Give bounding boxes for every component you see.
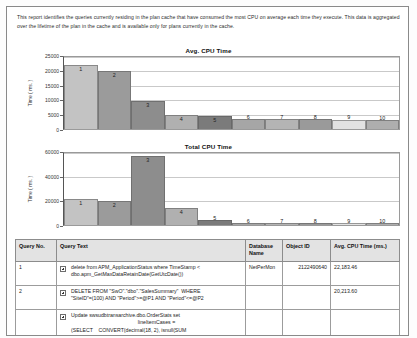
- chart-bar-label: 9: [332, 218, 366, 224]
- chart-bar[interactable]: [299, 119, 333, 129]
- query-text-line: delete from APM_ApplicationStatus where …: [71, 264, 242, 272]
- chart-bar-group[interactable]: 10: [366, 153, 400, 225]
- chart-title: Avg. CPU Time: [15, 47, 402, 54]
- chart-bar-label: 2: [98, 202, 132, 208]
- chart-bar[interactable]: [232, 119, 266, 129]
- chart-bar-group[interactable]: 4: [165, 153, 199, 225]
- cell-database-name: [246, 309, 283, 335]
- chart-bar-group[interactable]: 1: [64, 57, 98, 129]
- chart-total-cpu-time: Total CPU Time Time ( ms. ) 020000400006…: [15, 143, 402, 226]
- y-axis-tick-label: 60000: [45, 149, 59, 155]
- chart-bar-group[interactable]: 6: [232, 57, 266, 129]
- query-text-line: "SiteID"=(100) AND "Period">=@P1 AND "Pe…: [71, 295, 242, 303]
- table-body: 1delete from APM_ApplicationStatus where…: [16, 261, 400, 335]
- chart-bar-label: 4: [165, 209, 199, 215]
- chart-bar-label: 3: [131, 102, 165, 108]
- cell-query-no: 1: [16, 261, 57, 285]
- chart-bar[interactable]: [332, 120, 366, 130]
- cell-object-id: 2122490640: [283, 261, 331, 285]
- cell-avg-cpu-time: [331, 309, 400, 335]
- table-row[interactable]: 1delete from APM_ApplicationStatus where…: [16, 261, 400, 285]
- y-axis-tick-label: 20000: [45, 68, 59, 74]
- chart-bar-group[interactable]: 3: [131, 57, 165, 129]
- cell-query-text[interactable]: DELETE FROM "SwO"."dbo"."SalesSummary" W…: [57, 285, 246, 309]
- query-table-container[interactable]: Query No. Query Text Database Name Objec…: [15, 239, 400, 335]
- chart-bar-label: 10: [366, 218, 400, 224]
- chart-title: Total CPU Time: [15, 143, 402, 150]
- column-header-query-text[interactable]: Query Text: [57, 240, 246, 262]
- chart-bar-group[interactable]: 7: [265, 153, 299, 225]
- cell-query-text[interactable]: Update swsudbtransarchive.dbo.OrderStats…: [57, 309, 246, 335]
- report-page: This report identifies the queries curre…: [0, 0, 417, 338]
- chart-y-axis: 0200004000060000: [29, 152, 63, 226]
- chart-bar-label: 8: [299, 114, 333, 120]
- chart-bars: 12345678910: [64, 153, 399, 225]
- cell-database-name: NetPerMon: [246, 261, 283, 285]
- chart-bar-label: 3: [131, 157, 165, 163]
- chart-bar-group[interactable]: 2: [98, 153, 132, 225]
- query-text-line: Update swsudbtransarchive.dbo.OrderStats…: [71, 312, 242, 320]
- column-header-avg-cpu-time[interactable]: Avg. CPU Time (ms.): [331, 240, 400, 262]
- table-row[interactable]: Update swsudbtransarchive.dbo.OrderStats…: [16, 309, 400, 335]
- y-axis-tick-label: 0: [56, 127, 59, 133]
- chart-bar-label: 5: [198, 215, 232, 221]
- report-intro-text: This report identifies the queries curre…: [17, 13, 400, 32]
- cell-query-no: [16, 309, 57, 335]
- y-axis-tick-label: 5000: [48, 112, 59, 118]
- chart-bar-label: 9: [332, 114, 366, 120]
- expand-plus-icon[interactable]: [60, 266, 66, 272]
- expand-plus-icon[interactable]: [60, 314, 66, 320]
- y-axis-tick-label: 10000: [45, 97, 59, 103]
- chart-bar-label: 10: [366, 115, 400, 121]
- column-header-object-id[interactable]: Object ID: [283, 240, 331, 262]
- cell-database-name: [246, 285, 283, 309]
- chart-plot-area: 12345678910: [63, 56, 400, 130]
- chart-bar-group[interactable]: 1: [64, 153, 98, 225]
- chart-bar-group[interactable]: 5: [198, 153, 232, 225]
- chart-bar-label: 4: [165, 116, 199, 122]
- chart-bar-group[interactable]: 9: [332, 153, 366, 225]
- column-header-query-no[interactable]: Query No.: [16, 240, 57, 262]
- chart-bar-label: 7: [265, 218, 299, 224]
- chart-bar-group[interactable]: 8: [299, 57, 333, 129]
- y-axis-tick-label: 15000: [45, 83, 59, 89]
- chart-bar-label: 8: [299, 218, 333, 224]
- chart-bar-group[interactable]: 9: [332, 57, 366, 129]
- table-header-row: Query No. Query Text Database Name Objec…: [16, 240, 400, 262]
- chart-bar-group[interactable]: 4: [165, 57, 199, 129]
- report-frame: This report identifies the queries curre…: [6, 6, 409, 336]
- chart-bar[interactable]: [131, 156, 165, 225]
- chart-bar-group[interactable]: 8: [299, 153, 333, 225]
- query-text-line: DELETE FROM "SwO"."dbo"."SalesSummary" W…: [71, 288, 242, 296]
- query-text-line: dbo.apm_GetMaxDataRetainDate(GetUtcDate(…: [71, 271, 242, 279]
- chart-bar-group[interactable]: 10: [366, 57, 400, 129]
- table-row[interactable]: 2DELETE FROM "SwO"."dbo"."SalesSummary" …: [16, 285, 400, 309]
- cell-object-id: [283, 309, 331, 335]
- cell-object-id: [283, 285, 331, 309]
- query-text-line: (SELECT CONVERT(decimal(18, 2), isnull(S…: [71, 327, 242, 335]
- chart-bar-group[interactable]: 5: [198, 57, 232, 129]
- chart-bar[interactable]: [98, 71, 132, 129]
- chart-bar[interactable]: [265, 119, 299, 129]
- chart-bar[interactable]: [64, 65, 98, 129]
- cell-query-text[interactable]: delete from APM_ApplicationStatus where …: [57, 261, 246, 285]
- expand-plus-icon[interactable]: [60, 290, 66, 296]
- cell-avg-cpu-time: 20,213.60: [331, 285, 400, 309]
- chart-bar-group[interactable]: 2: [98, 57, 132, 129]
- chart-bar-group[interactable]: 3: [131, 153, 165, 225]
- chart-bar-label: 1: [64, 200, 98, 206]
- query-text-line: lineItemCases =: [71, 319, 242, 327]
- chart-bar[interactable]: [366, 120, 400, 129]
- chart-y-axis: 0500010000150002000025000: [29, 56, 63, 130]
- chart-bar-group[interactable]: 7: [265, 57, 299, 129]
- chart-bar-label: 2: [98, 72, 132, 78]
- chart-plot-area: 12345678910: [63, 152, 400, 226]
- cell-avg-cpu-time: 22,183.46: [331, 261, 400, 285]
- chart-bar-label: 6: [232, 114, 266, 120]
- cell-query-no: 2: [16, 285, 57, 309]
- column-header-database-name[interactable]: Database Name: [246, 240, 283, 262]
- chart-bar-group[interactable]: 6: [232, 153, 266, 225]
- y-axis-tick-label: 20000: [45, 198, 59, 204]
- chart-bar-label: 1: [64, 66, 98, 72]
- chart-avg-cpu-time: Avg. CPU Time Time ( ms. ) 0500010000150…: [15, 47, 402, 130]
